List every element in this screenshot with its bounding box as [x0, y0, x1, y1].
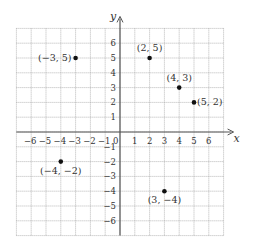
point-marker	[162, 189, 167, 194]
plotted-points: (−3, 5)(2, 5)(4, 3)(5, 2)(−4, −2)(3, −4)	[38, 42, 222, 205]
x-axis-label: x	[234, 132, 241, 145]
point-marker	[192, 100, 197, 105]
x-tick-label: −3	[68, 136, 81, 146]
y-tick-label: −2	[103, 157, 116, 167]
y-tick-label: 5	[111, 53, 116, 63]
y-tick-label: −6	[103, 216, 116, 226]
x-tick-label: 5	[191, 136, 196, 146]
y-tick-label: −4	[103, 186, 116, 196]
y-tick-label: 4	[111, 68, 116, 78]
coordinate-plane: −6−5−4−3−2−1123456−6−5−4−3−2−1123456 (−3…	[0, 0, 254, 252]
point-label: (−3, 5)	[38, 52, 72, 63]
x-tick-label: 2	[147, 136, 152, 146]
axes	[16, 16, 233, 235]
x-tick-label: −4	[54, 136, 67, 146]
x-tick-label: −2	[83, 136, 96, 146]
y-tick-label: 1	[111, 112, 116, 122]
x-tick-label: 6	[206, 136, 211, 146]
point-label: (3, −4)	[148, 194, 182, 205]
x-tick-label: −5	[39, 136, 52, 146]
y-tick-label: 3	[111, 83, 116, 93]
y-tick-label: −5	[103, 201, 116, 211]
y-tick-label: 2	[111, 97, 116, 107]
point-label: (−4, −2)	[40, 165, 81, 176]
point-label: (5, 2)	[197, 96, 223, 107]
y-tick-label: 6	[111, 38, 116, 48]
point-marker	[177, 85, 182, 90]
x-tick-label: −6	[24, 136, 37, 146]
x-tick-label: 4	[176, 136, 181, 146]
point-marker	[147, 56, 152, 61]
point-marker	[73, 56, 78, 61]
point-marker	[59, 159, 64, 164]
x-tick-label: 1	[132, 136, 137, 146]
origin-label: 0	[113, 136, 118, 146]
y-axis-label: y	[109, 10, 117, 23]
y-tick-label: −3	[103, 171, 116, 181]
x-tick-label: 3	[162, 136, 167, 146]
point-label: (2, 5)	[137, 42, 163, 53]
point-label: (4, 3)	[166, 72, 192, 83]
